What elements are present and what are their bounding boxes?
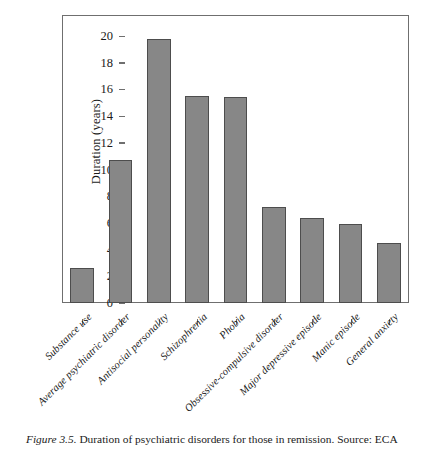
- bar: [109, 160, 133, 303]
- bar: [339, 224, 363, 303]
- figure-bar-chart: Duration (years) 02468101214161820 Subst…: [0, 0, 424, 457]
- bar: [300, 218, 324, 303]
- figure-caption: Figure 3.5. Duration of psychiatric diso…: [26, 432, 418, 446]
- y-tick-label: 18: [79, 55, 113, 71]
- y-tick-mark: [119, 62, 125, 63]
- bar: [377, 243, 401, 303]
- y-tick-mark: [119, 89, 125, 90]
- y-tick-label: 12: [79, 135, 113, 151]
- x-axis-label: Antisocial personality: [95, 311, 171, 387]
- caption-text: Duration of psychiatric disorders for th…: [79, 433, 397, 445]
- y-tick-mark: [119, 116, 125, 117]
- bar: [224, 97, 248, 303]
- figure-number: Figure 3.5.: [26, 433, 77, 445]
- plot-area: Duration (years) 02468101214161820: [63, 16, 408, 303]
- bar: [185, 96, 209, 303]
- bar: [70, 268, 94, 303]
- y-tick-label: 14: [79, 108, 113, 124]
- x-axis-label: Phobia: [217, 311, 248, 342]
- y-tick-mark: [119, 36, 125, 37]
- y-tick-label: 20: [79, 28, 113, 44]
- bar: [147, 39, 171, 303]
- bar: [262, 207, 286, 303]
- y-tick-mark: [119, 142, 125, 143]
- y-tick-label: 16: [79, 81, 113, 97]
